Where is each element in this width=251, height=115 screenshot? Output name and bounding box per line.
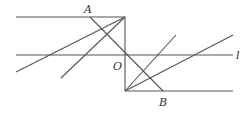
label-o: O [113, 60, 122, 73]
label-a: A [83, 3, 92, 16]
upper-left-ray-shallow [16, 17, 125, 72]
segment-ab [90, 17, 163, 91]
lower-right-ray-steep [125, 35, 176, 91]
label-l: l [236, 49, 240, 62]
label-b: B [158, 96, 167, 109]
geometry-diagram: A O B l [0, 0, 251, 115]
lower-right-ray-shallow [125, 35, 233, 91]
